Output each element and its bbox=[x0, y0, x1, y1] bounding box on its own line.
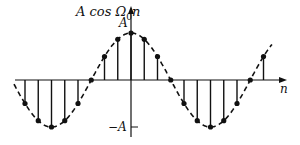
sample-dot bbox=[36, 118, 41, 123]
x-axis-label: n bbox=[280, 82, 288, 96]
sample-dot bbox=[234, 101, 239, 106]
y-axis-label: A cos Ω0n bbox=[76, 4, 140, 22]
sample-dot bbox=[195, 118, 200, 123]
sample-dot bbox=[248, 77, 253, 82]
cosine-stem-plot bbox=[0, 0, 300, 145]
sample-dot bbox=[221, 118, 226, 123]
sample-dot bbox=[208, 124, 213, 129]
sample-dot bbox=[128, 30, 133, 35]
y-label-n: n bbox=[132, 4, 140, 19]
sample-dot bbox=[49, 124, 54, 129]
sample-dot bbox=[102, 54, 107, 59]
sample-dot bbox=[168, 77, 173, 82]
tick-label-neg-a: −A bbox=[108, 120, 127, 134]
sample-dot bbox=[115, 37, 120, 42]
tick-label-a: A bbox=[119, 16, 128, 30]
sample-dot bbox=[142, 37, 147, 42]
sample-dot bbox=[181, 101, 186, 106]
sample-dot bbox=[261, 54, 266, 59]
sample-dot bbox=[62, 118, 67, 123]
sample-dot bbox=[155, 54, 160, 59]
sample-dot bbox=[75, 101, 80, 106]
sample-dot bbox=[22, 101, 27, 106]
sample-dot bbox=[89, 77, 94, 82]
